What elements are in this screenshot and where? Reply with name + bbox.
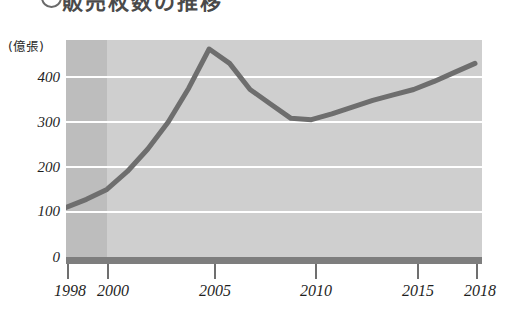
y-tick-100: 100 [6,203,60,220]
y-tick-0: 0 [6,249,60,266]
x-tick-label-2015: 2015 [402,282,434,300]
x-tick-label-2010: 2010 [300,282,332,300]
x-tick-mark-2015 [417,264,419,279]
y-tick-300: 300 [6,114,60,131]
x-axis-bar [66,257,482,264]
figure-heading-text: 販売枚数の推移 [62,0,223,14]
y-axis-tick-labels: 400 300 200 100 0 [0,0,60,331]
x-tick-label-2000: 2000 [97,282,129,300]
chart-figure: 販売枚数の推移 (億張) 400 300 200 100 0 1998 2000… [0,0,514,331]
x-tick-mark-2010 [315,264,317,279]
x-tick-mark-2005 [214,264,216,279]
plot-area [66,40,482,257]
x-tick-mark-2000 [107,264,109,279]
y-tick-200: 200 [6,159,60,176]
x-tick-label-2005: 2005 [199,282,231,300]
x-tick-label-1998: 1998 [54,282,86,300]
x-tick-label-2018: 2018 [464,282,496,300]
figure-heading: 販売枚数の推移 [0,0,514,14]
x-tick-mark-1998 [67,264,69,279]
line-series-plot [66,40,482,257]
y-tick-400: 400 [6,69,60,86]
x-tick-mark-2018 [476,264,478,279]
